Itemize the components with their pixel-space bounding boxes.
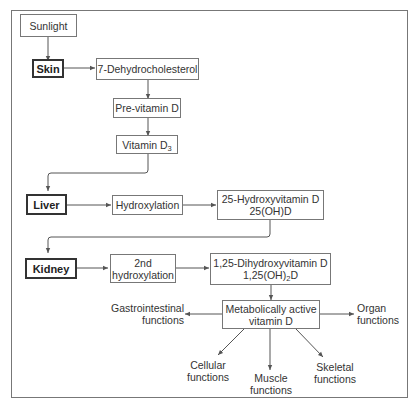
node-sunlight-label: Sunlight — [30, 20, 68, 32]
output-cellular-line2: functions — [183, 371, 233, 383]
node-125-dihydroxyvitamin-d: 1,25-Dihydroxyvitamin D 1,25(OH)2D — [210, 253, 331, 285]
node-125-dihydroxyvitamin-d-line1: 1,25-Dihydroxyvitamin D — [213, 257, 327, 269]
arrow-active-cellular — [218, 329, 244, 355]
node-skin-label: Skin — [36, 63, 59, 75]
output-organ: Organ functions — [357, 302, 403, 326]
node-2nd-hydroxylation: 2nd hydroxylation — [110, 254, 176, 283]
vitamin-d3-subscript: 3 — [168, 144, 172, 153]
node-7-dehydrocholesterol: 7-Dehydrocholesterol — [96, 58, 199, 80]
output-skeletal: Skeletal functions — [310, 361, 360, 385]
output-muscle-line2: functions — [246, 384, 296, 396]
output-gastrointestinal-line1: Gastrointestinal — [108, 302, 184, 314]
arrow-vitd3-liver — [48, 154, 148, 191]
node-vitamin-d3: Vitamin D3 — [116, 135, 178, 154]
node-liver-label: Liver — [33, 199, 59, 211]
node-2nd-hydroxylation-line2: hydroxylation — [112, 269, 174, 281]
node-2nd-hydroxylation-line1: 2nd — [134, 257, 152, 269]
node-previtamin-d: Pre-vitamin D — [113, 98, 181, 118]
dihydroxy-prefix: 1,25(OH) — [243, 269, 286, 281]
vitamin-d3-text: Vitamin D — [122, 139, 167, 151]
dihydroxy-suffix: D — [290, 269, 298, 281]
node-125-dihydroxyvitamin-d-line2: 1,25(OH)2D — [243, 269, 298, 281]
output-gastrointestinal: Gastrointestinal functions — [108, 302, 184, 326]
output-skeletal-line2: functions — [310, 373, 360, 385]
node-7-dehydrocholesterol-label: 7-Dehydrocholesterol — [98, 63, 198, 75]
node-skin: Skin — [32, 59, 64, 78]
output-organ-line1: Organ — [357, 302, 403, 314]
node-liver: Liver — [26, 194, 67, 215]
node-kidney: Kidney — [25, 258, 77, 279]
node-hydroxylation-label: Hydroxylation — [116, 199, 180, 211]
node-previtamin-d-label: Pre-vitamin D — [115, 102, 179, 114]
output-skeletal-line1: Skeletal — [310, 361, 360, 373]
node-active-vitamin-d-line1: Metabolically active — [225, 303, 316, 315]
output-cellular: Cellular functions — [183, 359, 233, 383]
arrow-active-skeletal — [296, 329, 323, 357]
node-kidney-label: Kidney — [33, 263, 70, 275]
node-sunlight: Sunlight — [20, 14, 77, 37]
output-organ-line2: functions — [357, 314, 403, 326]
node-vitamin-d3-label: Vitamin D3 — [122, 139, 172, 151]
output-gastrointestinal-line2: functions — [108, 314, 184, 326]
node-active-vitamin-d-line2: vitamin D — [249, 315, 293, 327]
output-muscle: Muscle functions — [246, 372, 296, 396]
node-25-hydroxyvitamin-d: 25-Hydroxyvitamin D 25(OH)D — [217, 190, 324, 220]
node-active-vitamin-d: Metabolically active vitamin D — [222, 300, 320, 329]
output-muscle-line1: Muscle — [246, 372, 296, 384]
node-25-hydroxyvitamin-d-line2: 25(OH)D — [249, 205, 291, 217]
node-25-hydroxyvitamin-d-line1: 25-Hydroxyvitamin D — [222, 193, 319, 205]
arrow-25ohd-kidney — [48, 220, 270, 253]
output-cellular-line1: Cellular — [183, 359, 233, 371]
node-hydroxylation: Hydroxylation — [112, 195, 183, 215]
